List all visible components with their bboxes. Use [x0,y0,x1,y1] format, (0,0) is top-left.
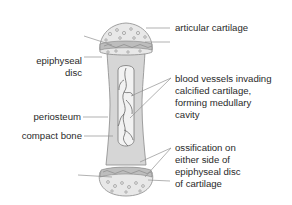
label-compact-bone: compact bone [10,130,82,142]
label-epiphyseal-disc-2: disc [30,67,82,79]
label-blood-vessels-1: blood vessels invading [175,73,272,85]
label-blood-vessels-2: calcified cartilage, [175,85,251,97]
label-ossification-3: epiphyseal disc [175,166,241,178]
label-periosteum: periosteum [20,111,81,123]
label-ossification-1: ossification on [175,142,236,154]
label-articular-cartilage: articular cartilage [175,22,248,34]
label-blood-vessels-3: forming medullary [175,97,251,109]
label-epiphyseal-disc-1: epiphyseal [30,55,82,67]
label-blood-vessels-4: cavity [175,109,200,121]
label-ossification-4: of cartilage [175,178,222,190]
medullary-cavity [118,66,134,147]
label-ossification-2: either side of [175,154,230,166]
top-epiphysis [100,23,153,55]
